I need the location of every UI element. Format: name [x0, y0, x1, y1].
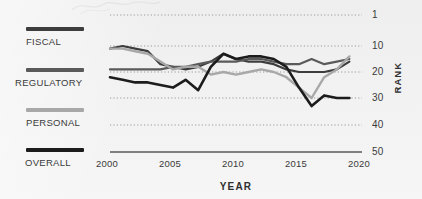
x-axis-title: YEAR [220, 181, 253, 192]
x-tick-2015: 2015 [285, 158, 307, 169]
legend-item-overall[interactable]: OVERALL [26, 148, 94, 168]
x-axis-title-wrap: YEAR [100, 176, 372, 194]
plot-svg [100, 0, 372, 199]
x-tick-2000: 2000 [96, 158, 118, 169]
legend-swatch-overall [26, 148, 84, 152]
y-tick-50: 50 [372, 146, 384, 157]
y-tick-30: 30 [372, 92, 384, 103]
y-tick-20: 20 [372, 66, 384, 77]
legend-label-overall: OVERALL [25, 157, 94, 168]
legend-item-personal[interactable]: PERSONAL [26, 108, 94, 128]
y-tick-1: 1 [372, 9, 378, 20]
y-tick-40: 40 [372, 119, 384, 130]
legend-label-fiscal: FISCAL [26, 36, 94, 47]
x-tick-2005: 2005 [159, 158, 181, 169]
legend-item-regulatory[interactable]: REGULATORY [26, 68, 94, 88]
rank-over-time-line-chart: FISCAL REGULATORY PERSONAL OVERALL 1 10 … [0, 0, 422, 199]
legend-swatch-regulatory [26, 68, 84, 72]
legend-label-personal: PERSONAL [26, 117, 94, 128]
x-tick-2010: 2010 [222, 158, 244, 169]
legend-swatch-fiscal [26, 27, 84, 31]
legend-swatch-personal [26, 108, 84, 112]
y-axis-title: RANK [392, 62, 403, 93]
x-tick-2020: 2020 [348, 158, 370, 169]
legend-label-regulatory: REGULATORY [15, 77, 94, 88]
series-line-regulatory[interactable] [110, 59, 349, 69]
chart-legend: FISCAL REGULATORY PERSONAL OVERALL [0, 0, 100, 199]
plot-area [100, 0, 372, 199]
legend-item-fiscal[interactable]: FISCAL [26, 27, 94, 47]
series-lines [110, 46, 349, 106]
y-tick-10: 10 [372, 40, 384, 51]
